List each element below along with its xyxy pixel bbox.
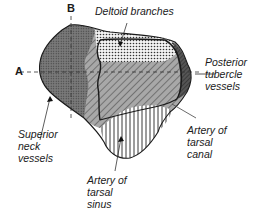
- label-superior-neck-vessels: Superior neck vessels: [18, 128, 58, 164]
- talus-vascular-diagram: [0, 0, 255, 210]
- label-artery-tarsal-canal: Artery of tarsal canal: [187, 124, 227, 160]
- axis-b-label: B: [67, 2, 75, 14]
- label-artery-tarsal-sinus: Artery of tarsal sinus: [87, 174, 127, 210]
- label-posterior-tubercle-vessels: Posterior tubercle vessels: [205, 56, 247, 92]
- label-deltoid-branches: Deltoid branches: [95, 5, 174, 17]
- axis-a-label: A: [15, 65, 23, 77]
